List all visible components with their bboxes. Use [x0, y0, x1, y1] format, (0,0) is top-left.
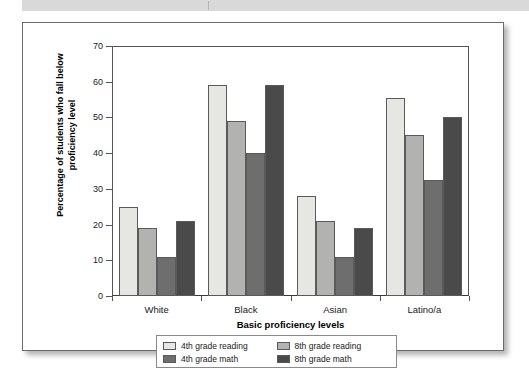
- legend-swatch-icon: [163, 342, 176, 350]
- legend-row: 4th grade reading 8th grade reading: [163, 339, 390, 352]
- bar: [316, 221, 335, 296]
- bar: [119, 207, 138, 296]
- header-band-tick: [208, 1, 209, 10]
- bar: [227, 121, 246, 296]
- bar-group: [291, 46, 380, 296]
- legend-swatch-icon: [277, 342, 290, 350]
- chart-legend: 4th grade reading 8th grade reading 4th …: [156, 335, 397, 368]
- legend-item: 4th grade math: [163, 354, 277, 364]
- bar-group: [201, 46, 290, 296]
- bar-group: [380, 46, 469, 296]
- bar: [157, 257, 176, 296]
- x-axis-category-label: Latino/a: [379, 304, 469, 315]
- bar: [386, 98, 405, 296]
- y-axis-tick-label: 10: [63, 255, 103, 265]
- y-axis-tick-label: 20: [63, 220, 103, 230]
- x-axis-tick: [469, 296, 470, 301]
- bar: [443, 117, 462, 296]
- x-axis-category-label: White: [112, 304, 202, 315]
- legend-label: 4th grade reading: [181, 341, 248, 351]
- x-axis-tick: [201, 296, 202, 301]
- y-axis-tick-label: 50: [63, 112, 103, 122]
- bar: [208, 85, 227, 296]
- x-axis-category-label: Asian: [290, 304, 380, 315]
- x-axis-category-label: Black: [201, 304, 291, 315]
- y-axis-tick-label: 60: [63, 77, 103, 87]
- legend-swatch-icon: [163, 355, 176, 363]
- bar: [297, 196, 316, 296]
- x-axis-title: Basic proficiency levels: [112, 319, 469, 330]
- bar: [335, 257, 354, 296]
- x-axis-tick: [380, 296, 381, 301]
- bar: [138, 228, 157, 296]
- legend-label: 4th grade math: [181, 354, 238, 364]
- y-axis-tick-label: 70: [63, 41, 103, 51]
- bar-group: [112, 46, 201, 296]
- page-header-band: [22, 0, 529, 11]
- bar: [265, 85, 284, 296]
- bar-chart: Percentage of students who fall below pr…: [23, 23, 505, 352]
- legend-label: 8th grade reading: [295, 341, 362, 351]
- bar: [354, 228, 373, 296]
- legend-row: 4th grade math 8th grade math: [163, 352, 390, 365]
- x-axis-tick: [291, 296, 292, 301]
- legend-item: 4th grade reading: [163, 341, 277, 351]
- y-axis-title: Percentage of students who fall below pr…: [54, 35, 78, 235]
- bar: [424, 180, 443, 296]
- legend-item: 8th grade reading: [277, 341, 391, 351]
- bars-layer: [112, 46, 469, 296]
- y-axis-tick-label: 30: [63, 184, 103, 194]
- legend-item: 8th grade math: [277, 354, 391, 364]
- bar: [246, 153, 265, 296]
- bar: [405, 135, 424, 296]
- bar: [176, 221, 195, 296]
- figure-card: Percentage of students who fall below pr…: [22, 22, 504, 351]
- legend-label: 8th grade math: [295, 354, 352, 364]
- y-axis-tick-label: 0: [63, 291, 103, 301]
- legend-swatch-icon: [277, 355, 290, 363]
- y-axis-tick-label: 40: [63, 148, 103, 158]
- x-axis-tick: [112, 296, 113, 301]
